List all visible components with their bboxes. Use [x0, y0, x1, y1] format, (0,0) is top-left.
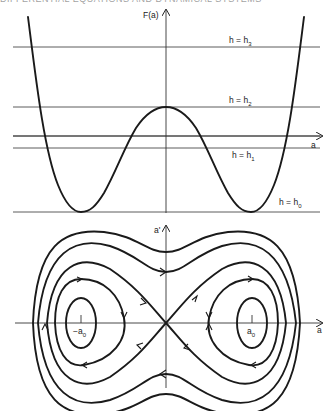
f-axis-label: F(a)	[143, 10, 159, 20]
phase-portrait-panel: a' a −a0 a0	[15, 225, 322, 411]
level-label-h1: h = h1	[232, 150, 255, 162]
a-axis-label-bottom: a	[317, 325, 322, 335]
left-equilibrium-label: −a0	[73, 326, 87, 338]
level-label-h0: h = h0	[279, 197, 302, 209]
right-equilibrium-label: a0	[247, 326, 256, 338]
a-axis-label-top: a	[311, 140, 316, 150]
figure: F(a) a h = h3 h = h2 h = h1 h = h0	[0, 0, 334, 411]
potential-panel: F(a) a h = h3 h = h2 h = h1 h = h0	[13, 10, 322, 213]
level-label-h2: h = h2	[229, 95, 252, 107]
a-prime-axis-label: a'	[154, 225, 161, 235]
level-label-h3: h = h3	[229, 35, 252, 47]
